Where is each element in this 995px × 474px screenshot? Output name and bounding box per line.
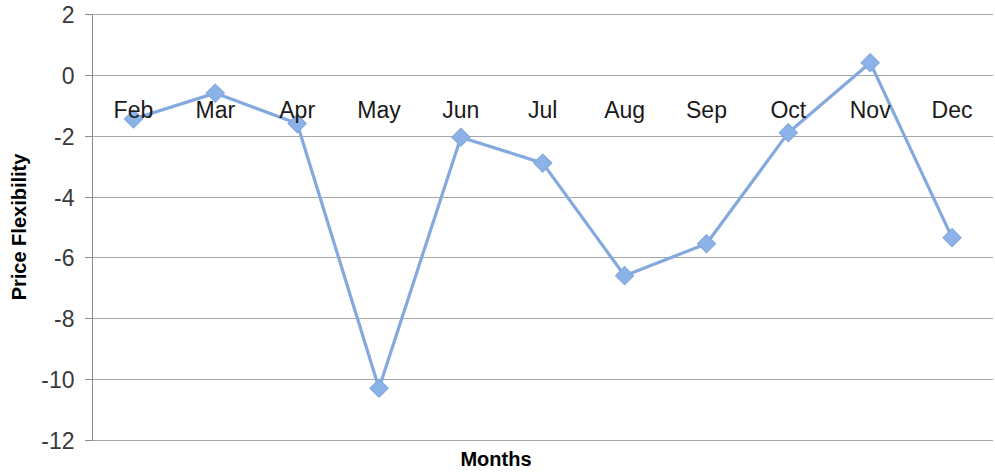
y-axis-tick-label: -2 — [54, 124, 74, 150]
x-axis-category-label: Dec — [932, 97, 973, 123]
y-axis-tick-label: 0 — [62, 63, 75, 89]
chart-background — [0, 0, 995, 474]
x-axis-category-label: Nov — [850, 97, 891, 123]
y-axis-tick-label: -12 — [41, 428, 74, 454]
y-axis-tick-label: 2 — [62, 2, 75, 28]
x-axis-category-label: Aug — [604, 97, 645, 123]
x-axis-category-label: Feb — [114, 97, 154, 123]
x-axis-category-label: Mar — [195, 97, 235, 123]
y-axis-tick-label: -10 — [41, 367, 74, 393]
x-axis-category-label: May — [357, 97, 401, 123]
x-axis-category-label: Sep — [686, 97, 727, 123]
line-chart: 20-2-4-6-8-10-12 FebMarAprMayJunJulAugSe… — [0, 0, 995, 474]
y-axis-title: Price Flexibility — [8, 153, 30, 301]
x-axis-title: Months — [460, 448, 531, 470]
y-axis-tick-label: -4 — [54, 185, 75, 211]
y-axis-tick-label: -8 — [54, 306, 74, 332]
x-axis-category-label: Oct — [770, 97, 806, 123]
y-axis-tick-label: -6 — [54, 245, 74, 271]
x-axis-category-label: Apr — [279, 97, 315, 123]
x-axis-category-label: Jun — [442, 97, 479, 123]
x-axis-category-label: Jul — [528, 97, 557, 123]
chart-canvas: 20-2-4-6-8-10-12 FebMarAprMayJunJulAugSe… — [0, 0, 995, 474]
